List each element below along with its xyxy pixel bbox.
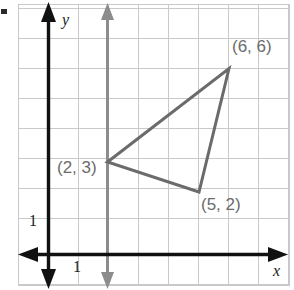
vertex-label-5-2: (5, 2) [201,196,241,213]
y-unit-tick-label: 1 [29,213,37,229]
x-unit-tick-label: 1 [73,259,81,275]
vertex-label-6-6: (6, 6) [232,38,272,55]
y-axis-label: y [62,12,69,28]
coordinate-plane-figure: y x 1 1 (6, 6) (2, 3) (5, 2) [0,0,294,290]
scan-artifact-mark [1,9,7,14]
vertex-label-2-3: (2, 3) [57,159,97,176]
x-axis-label: x [273,263,280,279]
